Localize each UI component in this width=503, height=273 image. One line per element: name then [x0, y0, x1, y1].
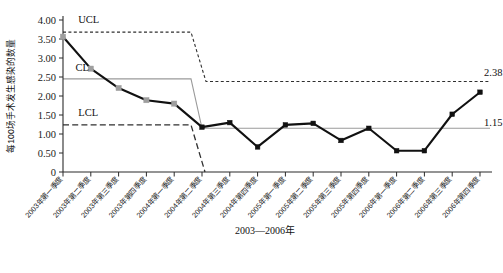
data-point-marker — [88, 66, 93, 71]
y-axis-title: 每100场手术发生感染的数量 — [5, 39, 16, 152]
y-tick-label: 3.50 — [38, 34, 56, 45]
y-axis-ticks-group: 00.501.001.502.002.503.003.504.00 — [38, 15, 63, 178]
x-axis-title-group: 2003—2006年 — [235, 224, 295, 236]
data-point-marker — [339, 138, 344, 143]
data-point-marker — [228, 120, 233, 125]
control-chart: 每100场手术发生感染的数量 00.501.001.502.002.503.00… — [0, 0, 503, 273]
x-axis-title: 2003—2006年 — [235, 224, 295, 236]
cl2-value: 1.15 — [484, 117, 502, 128]
y-axis-title-group: 每100场手术发生感染的数量 — [5, 39, 16, 152]
chart-canvas: 每100场手术发生感染的数量 00.501.001.502.002.503.00… — [0, 0, 503, 273]
cl-label: CL — [76, 62, 89, 73]
y-tick-label: 1.50 — [38, 110, 56, 121]
y-tick-label: 1.00 — [38, 129, 56, 140]
ucl-label: UCL — [78, 14, 99, 25]
data-point-marker — [200, 125, 205, 130]
data-point-marker — [311, 121, 316, 126]
data-point-marker — [60, 34, 65, 39]
y-tick-label: 2.00 — [38, 91, 56, 102]
data-point-marker — [450, 112, 455, 117]
data-point-marker — [172, 101, 177, 106]
y-tick-label: 0 — [51, 167, 56, 178]
y-tick-label: 4.00 — [38, 15, 56, 26]
data-point-marker — [367, 126, 372, 131]
data-point-marker — [144, 98, 149, 103]
y-tick-label: 3.00 — [38, 53, 56, 64]
data-point-marker — [255, 145, 260, 150]
data-point-marker — [422, 148, 427, 153]
data-point-marker — [116, 85, 121, 90]
data-point-marker — [283, 123, 288, 128]
data-point-marker — [478, 90, 483, 95]
ucl2-value: 2.38 — [484, 67, 502, 78]
y-tick-label: 2.50 — [38, 72, 56, 83]
y-tick-label: 0.50 — [38, 148, 56, 159]
data-point-marker — [394, 148, 399, 153]
lcl-label: LCL — [78, 107, 98, 118]
